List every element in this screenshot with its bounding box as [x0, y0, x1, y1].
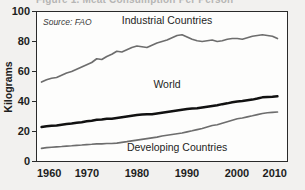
- x-axis-tick-labels: 1960 1970 1980 1990 2000 2010: [37, 167, 287, 179]
- y-axis-title: Kilograms: [2, 61, 14, 113]
- series-label-world: World: [153, 78, 180, 90]
- y-tick-80: 80: [18, 35, 30, 47]
- y-tick-60: 60: [18, 65, 30, 77]
- x-tick-1960: 1960: [37, 167, 61, 179]
- y-tick-20: 20: [18, 125, 30, 137]
- series-label-developing-countries: Developing Countries: [127, 141, 227, 153]
- x-tick-1990: 1990: [175, 167, 199, 179]
- x-tick-2010: 2010: [263, 167, 287, 179]
- y-axis-tick-labels: 100 80 60 40 20 0: [12, 5, 30, 167]
- y-tick-100: 100: [12, 5, 30, 17]
- y-tick-40: 40: [18, 95, 30, 107]
- figure-title: Figure 1. Meat Consumption Per Person: [36, 0, 233, 5]
- x-tick-2000: 2000: [225, 167, 249, 179]
- source-note: Source: FAO: [43, 17, 92, 27]
- y-tick-0: 0: [24, 155, 30, 167]
- y-axis-ticks: [32, 12, 37, 162]
- x-tick-1970: 1970: [75, 167, 99, 179]
- x-tick-1980: 1980: [125, 167, 149, 179]
- line-chart-svg: 100 80 60 40 20 0 Kilograms 1960 1970 19…: [0, 0, 305, 190]
- chart-figure: Figure 1. Meat Consumption Per Person 10…: [0, 0, 305, 190]
- series-label-industrial-countries: Industrial Countries: [122, 14, 212, 26]
